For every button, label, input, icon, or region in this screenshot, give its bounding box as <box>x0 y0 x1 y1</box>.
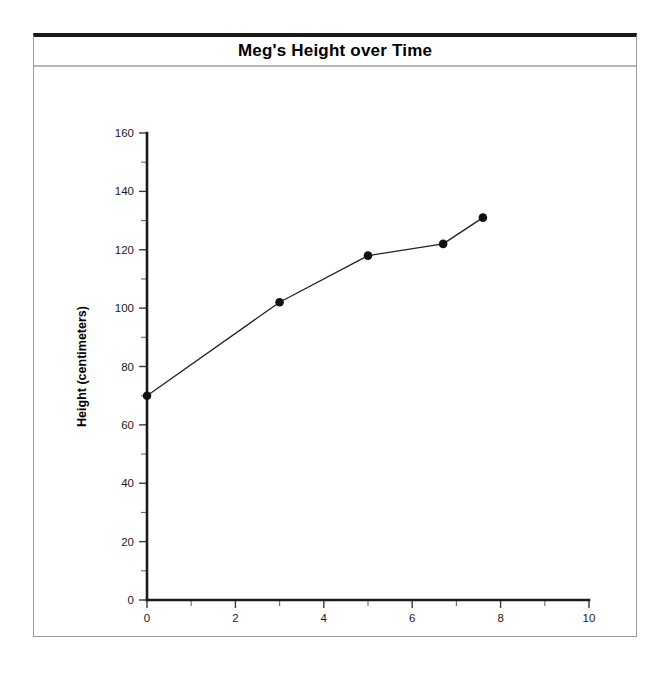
data-point <box>479 213 488 222</box>
y-tick-label: 160 <box>115 127 134 139</box>
y-tick-label: 80 <box>121 361 134 373</box>
plot-area: 020406080100120140160 0246810 Height (ce… <box>34 69 636 636</box>
line-chart-svg: 020406080100120140160 0246810 Height (ce… <box>34 69 636 639</box>
x-tick-label: 10 <box>583 612 596 624</box>
y-tick-label: 140 <box>115 185 134 197</box>
data-point <box>143 391 152 400</box>
y-tick-label: 20 <box>121 536 134 548</box>
x-tick-label: 8 <box>497 612 503 624</box>
x-tick-label: 0 <box>144 612 150 624</box>
x-tick-label: 2 <box>232 612 238 624</box>
data-point <box>364 251 373 260</box>
x-tick-label: 6 <box>409 612 415 624</box>
y-tick-label: 40 <box>121 477 134 489</box>
data-point <box>275 298 284 307</box>
y-tick-label: 100 <box>115 302 134 314</box>
y-tick-label: 0 <box>128 594 134 606</box>
chart-title-bar: Meg's Height over Time <box>34 37 636 67</box>
y-axis-title: Height (centimeters) <box>75 306 89 427</box>
data-series <box>143 213 488 400</box>
data-point <box>439 240 448 249</box>
screenshot-root: Meg's Height over Time 02040608010012014… <box>0 0 664 682</box>
series-line <box>147 218 483 396</box>
y-tick-label: 60 <box>121 419 134 431</box>
page-title: Meg's Height over Time <box>238 41 432 61</box>
chart-card: Meg's Height over Time 02040608010012014… <box>33 33 637 637</box>
y-tick-label: 120 <box>115 244 134 256</box>
x-tick-label: 4 <box>321 612 328 624</box>
x-axis-ticks: 0246810 <box>144 600 596 624</box>
y-axis-ticks: 020406080100120140160 <box>115 127 147 606</box>
